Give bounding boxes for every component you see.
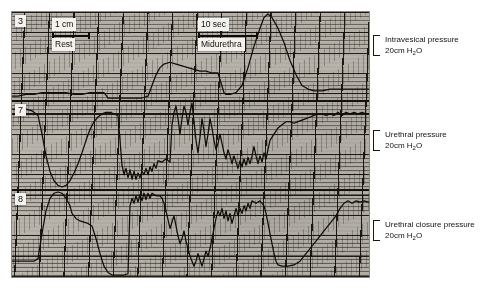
annotation-scale: 20cm H2O (385, 141, 447, 152)
trace-urethral-pressure (12, 103, 369, 187)
annotation-scale: 20cm H2O (385, 231, 475, 242)
annotation-text: Urethral pressure 20cm H2O (385, 130, 447, 151)
annotation-intravesical-pressure: Intravesical pressure 20cm H2O (373, 35, 459, 56)
annotation-text: Urethral closure pressure 20cm H2O (385, 220, 475, 241)
chart-recorder-paper: 3 7 8 1 cm Rest 10 sec Midurethra (12, 12, 369, 277)
phase-label-rest: Rest (52, 38, 75, 51)
trace-urethral-closure-pressure (12, 192, 369, 275)
amplitude-scale-label: 1 cm (52, 18, 76, 31)
phase-label-midurethra: Midurethra (198, 38, 245, 51)
grid-major-vertical (12, 12, 369, 277)
panel-separator-2 (12, 189, 369, 191)
bracket-icon (373, 130, 380, 151)
annotation-title: Intravesical pressure (385, 35, 459, 44)
paper-texture (12, 12, 369, 277)
time-scale-label: 10 sec (198, 18, 229, 31)
annotation-urethral-pressure: Urethral pressure 20cm H2O (373, 130, 447, 151)
channel-number-8: 8 (15, 193, 26, 205)
subscript: 2 (413, 50, 416, 56)
annotation-scale: 20cm H2O (385, 46, 459, 57)
bracket-icon (373, 35, 380, 56)
grid-major-horizontal (12, 12, 369, 277)
annotation-title: Urethral pressure (385, 130, 447, 139)
annotation-urethral-closure-pressure: Urethral closure pressure 20cm H2O (373, 220, 475, 241)
figure-root: 3 7 8 1 cm Rest 10 sec Midurethra Intrav… (0, 0, 488, 291)
grid-fine-lines (12, 12, 369, 277)
bracket-icon (373, 220, 380, 241)
annotation-title: Urethral closure pressure (385, 220, 475, 229)
trace-layer (12, 12, 369, 277)
channel-number-7: 7 (15, 104, 26, 116)
panel-separator-1 (12, 100, 369, 102)
subscript: 2 (413, 235, 416, 241)
annotation-text: Intravesical pressure 20cm H2O (385, 35, 459, 56)
subscript: 2 (413, 145, 416, 151)
channel-number-3: 3 (15, 15, 26, 27)
